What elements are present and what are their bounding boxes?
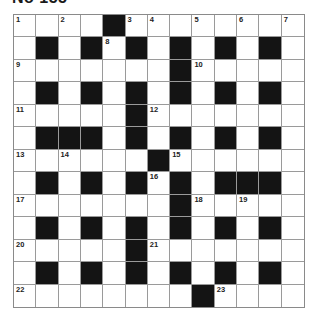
- grid-cell[interactable]: [148, 127, 170, 149]
- grid-cell[interactable]: [148, 195, 170, 217]
- grid-cell[interactable]: 13: [14, 150, 36, 172]
- grid-cell[interactable]: 12: [148, 105, 170, 127]
- grid-cell[interactable]: [81, 15, 103, 37]
- grid-cell[interactable]: [282, 60, 304, 82]
- grid-cell[interactable]: 16: [148, 172, 170, 194]
- grid-cell[interactable]: [148, 262, 170, 284]
- grid-cell[interactable]: [81, 150, 103, 172]
- grid-cell[interactable]: [59, 285, 81, 307]
- grid-cell[interactable]: [282, 105, 304, 127]
- grid-cell[interactable]: [14, 262, 36, 284]
- grid-cell[interactable]: [282, 37, 304, 59]
- grid-cell[interactable]: [81, 240, 103, 262]
- grid-cell[interactable]: [259, 150, 281, 172]
- grid-cell[interactable]: [14, 172, 36, 194]
- grid-cell[interactable]: [282, 195, 304, 217]
- grid-cell[interactable]: [14, 82, 36, 104]
- grid-cell[interactable]: [259, 60, 281, 82]
- grid-cell[interactable]: [103, 240, 125, 262]
- grid-cell[interactable]: [81, 60, 103, 82]
- grid-cell[interactable]: [215, 240, 237, 262]
- grid-cell[interactable]: 8: [103, 37, 125, 59]
- grid-cell[interactable]: [282, 127, 304, 149]
- grid-cell[interactable]: [192, 217, 214, 239]
- grid-cell[interactable]: [259, 105, 281, 127]
- grid-cell[interactable]: [282, 262, 304, 284]
- grid-cell[interactable]: [215, 150, 237, 172]
- grid-cell[interactable]: [103, 127, 125, 149]
- grid-cell[interactable]: [148, 37, 170, 59]
- grid-cell[interactable]: 19: [237, 195, 259, 217]
- grid-cell[interactable]: [103, 60, 125, 82]
- grid-cell[interactable]: [59, 105, 81, 127]
- grid-cell[interactable]: [192, 240, 214, 262]
- grid-cell[interactable]: 3: [126, 15, 148, 37]
- grid-cell[interactable]: [59, 172, 81, 194]
- grid-cell[interactable]: [192, 262, 214, 284]
- grid-cell[interactable]: [170, 15, 192, 37]
- grid-cell[interactable]: [148, 60, 170, 82]
- grid-cell[interactable]: [126, 60, 148, 82]
- grid-cell[interactable]: [148, 285, 170, 307]
- grid-cell[interactable]: [59, 37, 81, 59]
- grid-cell[interactable]: [192, 150, 214, 172]
- grid-cell[interactable]: [237, 37, 259, 59]
- grid-cell[interactable]: [59, 82, 81, 104]
- grid-cell[interactable]: 5: [192, 15, 214, 37]
- grid-cell[interactable]: [237, 262, 259, 284]
- grid-cell[interactable]: [259, 285, 281, 307]
- grid-cell[interactable]: [103, 217, 125, 239]
- grid-cell[interactable]: [215, 105, 237, 127]
- grid-cell[interactable]: [282, 285, 304, 307]
- grid-cell[interactable]: [59, 240, 81, 262]
- grid-cell[interactable]: 1: [14, 15, 36, 37]
- grid-cell[interactable]: [81, 195, 103, 217]
- grid-cell[interactable]: [126, 195, 148, 217]
- grid-cell[interactable]: 11: [14, 105, 36, 127]
- grid-cell[interactable]: [259, 240, 281, 262]
- grid-cell[interactable]: [170, 105, 192, 127]
- grid-cell[interactable]: [59, 60, 81, 82]
- grid-cell[interactable]: [237, 150, 259, 172]
- grid-cell[interactable]: [59, 217, 81, 239]
- grid-cell[interactable]: [103, 195, 125, 217]
- grid-cell[interactable]: [36, 15, 58, 37]
- grid-cell[interactable]: [282, 150, 304, 172]
- grid-cell[interactable]: [14, 127, 36, 149]
- grid-cell[interactable]: [81, 285, 103, 307]
- grid-cell[interactable]: [237, 240, 259, 262]
- grid-cell[interactable]: [282, 82, 304, 104]
- grid-cell[interactable]: [103, 262, 125, 284]
- grid-cell[interactable]: [192, 127, 214, 149]
- grid-cell[interactable]: 21: [148, 240, 170, 262]
- grid-cell[interactable]: [192, 82, 214, 104]
- grid-cell[interactable]: 7: [282, 15, 304, 37]
- grid-cell[interactable]: 22: [14, 285, 36, 307]
- grid-cell[interactable]: [36, 240, 58, 262]
- grid-cell[interactable]: 23: [215, 285, 237, 307]
- grid-cell[interactable]: 4: [148, 15, 170, 37]
- grid-cell[interactable]: [192, 105, 214, 127]
- grid-cell[interactable]: [259, 15, 281, 37]
- grid-cell[interactable]: 17: [14, 195, 36, 217]
- grid-cell[interactable]: [81, 105, 103, 127]
- grid-cell[interactable]: 20: [14, 240, 36, 262]
- grid-cell[interactable]: [148, 82, 170, 104]
- grid-cell[interactable]: [14, 37, 36, 59]
- grid-cell[interactable]: [215, 195, 237, 217]
- grid-cell[interactable]: 18: [192, 195, 214, 217]
- grid-cell[interactable]: [36, 285, 58, 307]
- grid-cell[interactable]: [237, 127, 259, 149]
- grid-cell[interactable]: [103, 285, 125, 307]
- grid-cell[interactable]: [59, 195, 81, 217]
- grid-cell[interactable]: [36, 150, 58, 172]
- grid-cell[interactable]: [237, 285, 259, 307]
- grid-cell[interactable]: 14: [59, 150, 81, 172]
- grid-cell[interactable]: [282, 217, 304, 239]
- grid-cell[interactable]: [237, 105, 259, 127]
- grid-cell[interactable]: [126, 285, 148, 307]
- grid-cell[interactable]: 9: [14, 60, 36, 82]
- grid-cell[interactable]: [170, 240, 192, 262]
- grid-cell[interactable]: 15: [170, 150, 192, 172]
- grid-cell[interactable]: [36, 105, 58, 127]
